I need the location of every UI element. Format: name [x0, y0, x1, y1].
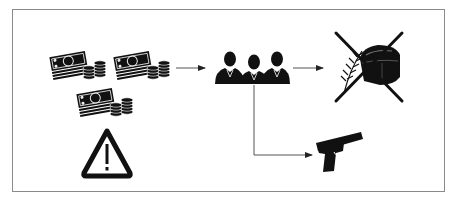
businessmen-group: Group of people [213, 51, 291, 84]
money-bundle-2: Money [113, 49, 171, 81]
money-bundle-1: Money [49, 49, 107, 81]
pistol-icon [314, 130, 364, 174]
money-bundle-icon [76, 86, 134, 118]
businessmen-group-icon [213, 51, 291, 84]
money-bundle-icon [49, 49, 107, 81]
pistol: Gun [314, 130, 364, 174]
arrow-people-to-gun [254, 85, 312, 155]
money-bundle-3: Money [76, 86, 134, 118]
warning-icon [80, 127, 134, 179]
money-bundle-icon [113, 49, 171, 81]
warning-sign: Warning [80, 127, 134, 179]
bread-wheat-crossed-icon [332, 29, 406, 105]
food-crossed-out: Food (crossed out) [332, 29, 406, 105]
